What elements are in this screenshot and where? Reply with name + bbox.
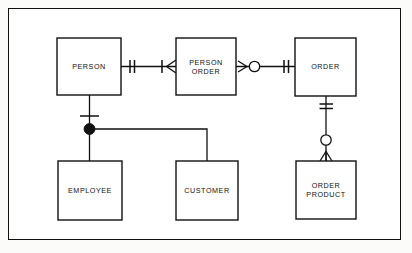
entity-customer[interactable]: CUSTOMER <box>176 161 238 220</box>
connector-person-customer <box>90 129 208 161</box>
entity-person[interactable]: PERSON <box>57 38 121 95</box>
optional-circle-order-product <box>321 135 331 145</box>
entity-order[interactable]: ORDER <box>295 38 356 96</box>
entity-person-order[interactable]: PERSON ORDER <box>176 38 236 95</box>
entity-person-order-label-line1: PERSON <box>189 58 223 67</box>
entity-order-product[interactable]: ORDER PRODUCT <box>296 161 356 219</box>
entity-order-product-label-line2: PRODUCT <box>306 190 345 199</box>
entity-employee[interactable]: EMPLOYEE <box>58 161 122 220</box>
entity-employee-label: EMPLOYEE <box>68 186 112 195</box>
entity-person-order-label-line2: ORDER <box>192 67 221 76</box>
entity-order-label: ORDER <box>311 62 340 71</box>
subtype-discriminator-dot <box>84 124 95 135</box>
optional-circle-person-order <box>249 61 259 71</box>
entity-order-product-label-line1: ORDER <box>312 181 341 190</box>
er-diagram-canvas: PERSON PERSON ORDER ORDER EMPLOYEE CUSTO… <box>0 0 412 253</box>
er-diagram-svg: PERSON PERSON ORDER ORDER EMPLOYEE CUSTO… <box>0 0 412 253</box>
entity-person-label: PERSON <box>72 62 106 71</box>
entity-customer-label: CUSTOMER <box>184 186 229 195</box>
